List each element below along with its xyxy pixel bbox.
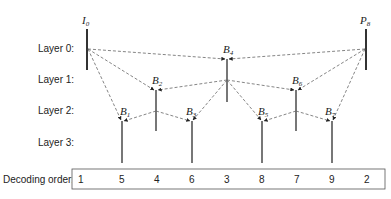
decoding-order-value: 6 bbox=[189, 174, 195, 185]
decoding-order-value: 8 bbox=[259, 174, 265, 185]
layer-3-label: Layer 3: bbox=[38, 137, 74, 148]
arrow-B4-to-B2 bbox=[158, 80, 227, 90]
frame-label-B4: B4 bbox=[223, 43, 234, 57]
decoding-order-label: Decoding order: bbox=[3, 174, 74, 185]
arrow-I0-to-B1 bbox=[88, 49, 121, 120]
frame-label-B7: B7 bbox=[325, 105, 336, 119]
layer-1-label: Layer 1: bbox=[38, 74, 74, 85]
decoding-order-value: 4 bbox=[154, 174, 160, 185]
decoding-order-value: 9 bbox=[329, 174, 335, 185]
frame-label-B3: B3 bbox=[186, 105, 197, 119]
frame-label-B6: B6 bbox=[292, 74, 303, 88]
arrow-B4-to-B5 bbox=[227, 80, 261, 120]
hierarchical-b-frame-diagram: Layer 0: Layer 1: Layer 2: Layer 3: I0 bbox=[0, 0, 391, 199]
arrow-B2-to-B3 bbox=[156, 111, 190, 121]
arrow-P8-to-B7 bbox=[333, 49, 365, 120]
layer-0-label: Layer 0: bbox=[38, 43, 74, 54]
decoding-order-value: 7 bbox=[294, 174, 300, 185]
layer-2-label: Layer 2: bbox=[38, 105, 74, 116]
decoding-order-value: 3 bbox=[224, 174, 230, 185]
frame-label-B1: B1 bbox=[120, 105, 130, 119]
arrow-B4-to-B6 bbox=[227, 80, 294, 90]
decoding-order-value: 2 bbox=[364, 174, 370, 185]
arrow-B6-to-B5 bbox=[264, 111, 296, 121]
frame-label-B2: B2 bbox=[152, 74, 163, 88]
arrow-P8-to-B6 bbox=[298, 49, 365, 90]
arrow-I0-to-B4 bbox=[88, 49, 225, 59]
decoding-order-value: 5 bbox=[119, 174, 125, 185]
decoding-order-value: 1 bbox=[78, 174, 84, 185]
frame-label-P8: P8 bbox=[359, 14, 371, 28]
arrow-B4-to-B3 bbox=[193, 80, 227, 120]
arrow-P8-to-B4 bbox=[229, 49, 365, 59]
frame-label-I0: I0 bbox=[81, 14, 90, 28]
frame-label-B5: B5 bbox=[258, 105, 269, 119]
